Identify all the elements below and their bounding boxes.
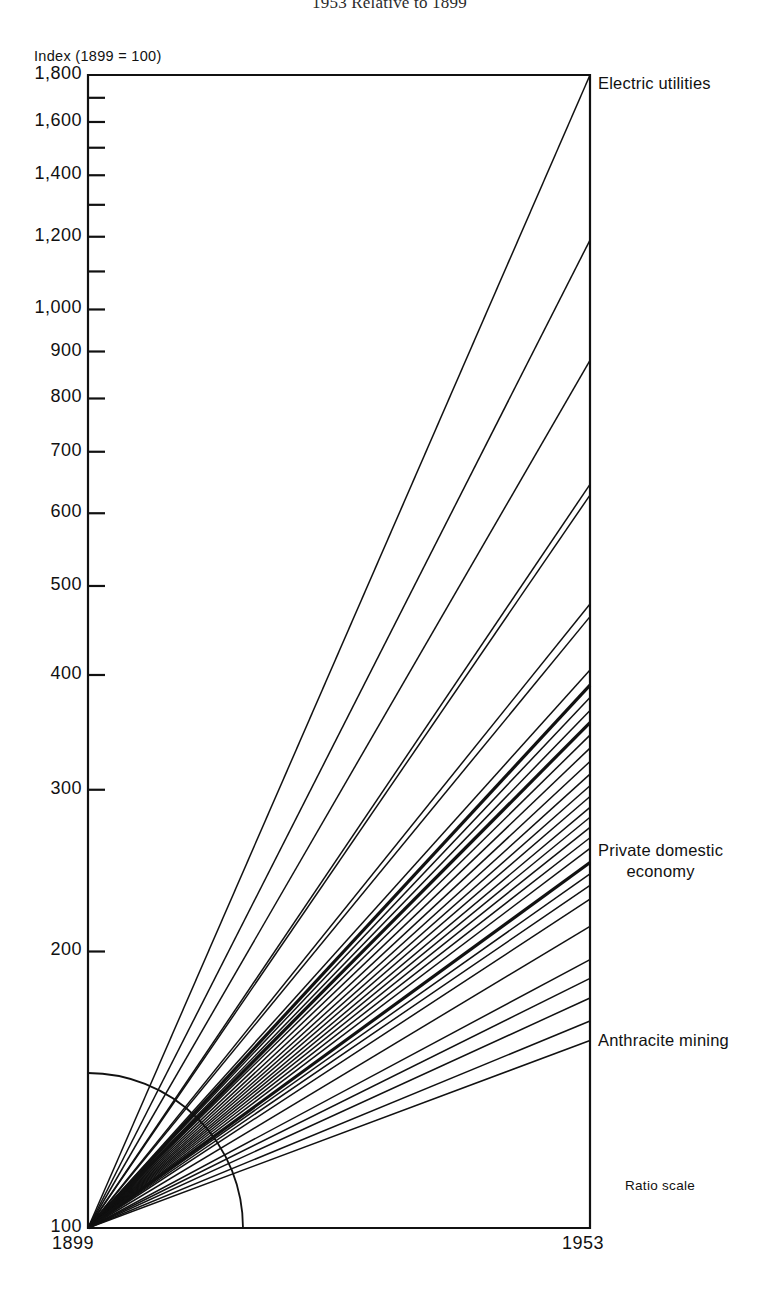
y-tick-label: 700 [50,440,82,461]
ratio-scale-note: Ratio scale [625,1178,695,1193]
series-line [88,484,590,1228]
x-axis-label-start: 1899 [52,1233,94,1254]
y-tick-label: 1,000 [34,297,82,318]
y-tick-label: 1,400 [34,163,82,184]
series-line [88,807,590,1228]
series-line [88,960,590,1228]
series-line [88,786,590,1228]
series-line [88,827,590,1228]
series-line [88,817,590,1228]
series-line [88,723,590,1228]
series-label-private-domestic-economy: Private domestic economy [598,840,723,881]
series-line [88,1021,590,1228]
series-line [88,978,590,1228]
series-line [88,774,590,1228]
y-axis-minor-ticks [88,98,105,272]
x-axis-label-end: 1953 [562,1233,604,1254]
y-tick-label: 300 [50,778,82,799]
series-line [88,360,590,1228]
series-line [88,762,590,1228]
series-line [88,848,590,1228]
y-tick-label: 1,600 [34,110,82,131]
series-lines [88,75,590,1228]
y-tick-label: 200 [50,939,82,960]
y-tick-label: 1,800 [34,63,82,84]
series-line [88,748,590,1228]
series-line [88,698,590,1228]
series-line [88,926,590,1228]
y-axis-caption: Index (1899 = 100) [34,48,162,64]
series-line [88,874,590,1228]
y-tick-label: 900 [50,340,82,361]
series-line [88,862,590,1228]
series-label-anthracite-mining: Anthracite mining [598,1030,729,1051]
series-label-line-2: economy [598,861,723,882]
series-label-line-1: Private domestic [598,840,723,861]
series-line [88,240,590,1228]
series-line [88,75,590,1228]
y-tick-label: 1,200 [34,225,82,246]
series-label-electric-utilities: Electric utilities [598,73,711,94]
y-tick-label: 600 [50,501,82,522]
series-line [88,617,590,1228]
chart-figure [0,0,779,1306]
series-line [88,685,590,1228]
y-tick-label: 800 [50,386,82,407]
y-tick-label: 400 [50,663,82,684]
y-tick-label: 500 [50,574,82,595]
series-line [88,735,590,1228]
y-axis-major-ticks [88,122,105,952]
